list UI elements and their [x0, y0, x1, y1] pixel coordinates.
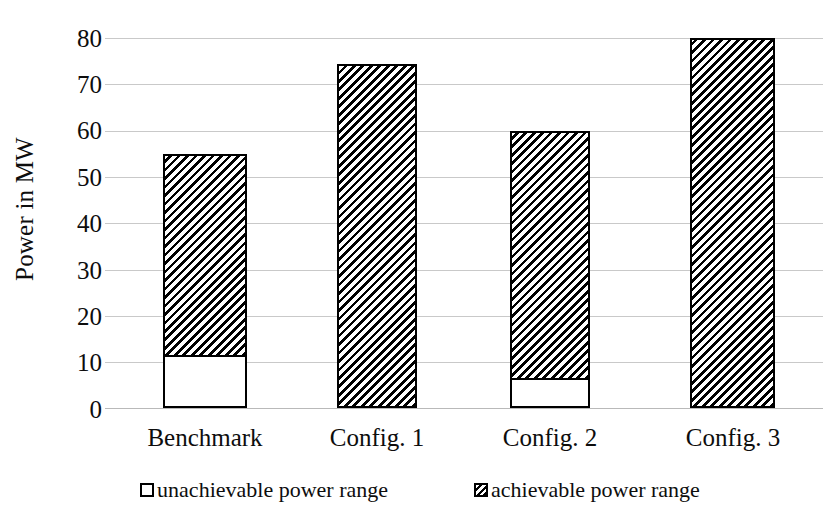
hatched-square-icon [474, 483, 488, 497]
x-axis-category-labels: Benchmark Config. 1 Config. 2 Config. 3 [105, 424, 823, 458]
legend-item-achievable: achievable power range [474, 479, 700, 501]
legend-item-unachievable: unachievable power range [140, 479, 388, 501]
bar-group-benchmark [163, 154, 247, 408]
x-tick-label-config-1: Config. 1 [297, 424, 457, 452]
bar-segment-achievable [690, 38, 775, 408]
bar-segment-unachievable [510, 380, 590, 408]
bar-segment-unachievable [163, 357, 247, 408]
x-tick-label-benchmark: Benchmark [125, 424, 285, 452]
legend-label: achievable power range [491, 479, 700, 501]
y-tick-label: 30 [40, 258, 102, 283]
bar-segment-achievable [337, 64, 417, 408]
y-tick-label: 40 [40, 211, 102, 236]
x-tick-label-config-3: Config. 3 [653, 424, 813, 452]
x-tick-label-config-2: Config. 2 [470, 424, 630, 452]
bar-segment-achievable [510, 131, 590, 380]
y-tick-label: 50 [40, 165, 102, 190]
white-square-icon [140, 483, 154, 497]
chart-legend: unachievable power range achievable powe… [0, 473, 840, 507]
y-tick-label: 20 [40, 304, 102, 329]
y-tick-label: 70 [40, 72, 102, 97]
bar-group-config-2 [510, 131, 590, 408]
bar-chart: Power in MW 80 70 60 50 40 30 20 10 0 [0, 0, 840, 513]
y-axis-tick-labels: 80 70 60 50 40 30 20 10 0 [40, 0, 102, 460]
bars-layer [105, 28, 823, 418]
y-tick-label: 10 [40, 350, 102, 375]
bar-segment-achievable [163, 154, 247, 357]
bar-group-config-1 [337, 64, 417, 408]
y-tick-label: 80 [40, 26, 102, 51]
bar-group-config-3 [690, 38, 775, 408]
legend-label: unachievable power range [157, 479, 388, 501]
plot-area [105, 28, 823, 418]
y-tick-label: 60 [40, 118, 102, 143]
y-tick-label: 0 [40, 397, 102, 422]
